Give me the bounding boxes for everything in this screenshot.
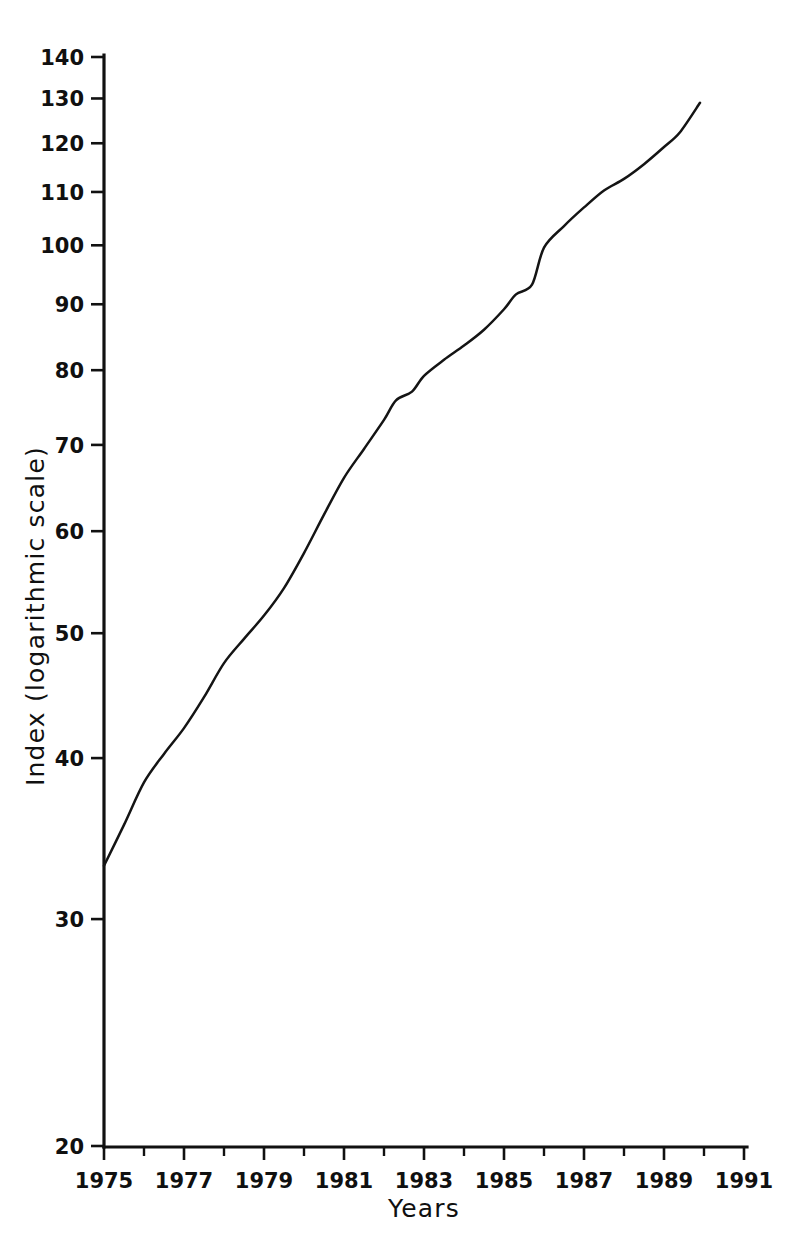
y-tick-label: 60 — [55, 520, 84, 544]
x-tick-label: 1991 — [715, 1169, 773, 1193]
chart-figure: 2030405060708090100110120130140 19751977… — [0, 0, 808, 1244]
y-tick-label: 140 — [40, 46, 84, 70]
line-chart-canvas: 2030405060708090100110120130140 19751977… — [0, 0, 808, 1244]
y-tick-label: 30 — [55, 908, 84, 932]
x-tick-label: 1987 — [555, 1169, 613, 1193]
x-axis-title: Years — [387, 1194, 460, 1223]
y-tick-label: 120 — [40, 132, 84, 156]
y-axis-title: Index (logarithmic scale) — [21, 446, 50, 786]
x-tick-label: 1981 — [315, 1169, 373, 1193]
y-axis-ticks — [91, 57, 104, 1146]
x-tick-label: 1989 — [635, 1169, 693, 1193]
y-tick-label: 80 — [55, 359, 84, 383]
x-tick-label: 1975 — [75, 1169, 133, 1193]
y-tick-label: 130 — [40, 87, 84, 111]
data-series-line — [104, 103, 700, 866]
y-tick-label: 90 — [55, 293, 84, 317]
x-axis-tick-labels: 197519771979198119831985198719891991 — [75, 1169, 773, 1193]
y-tick-label: 100 — [40, 234, 84, 258]
y-tick-label: 20 — [55, 1135, 84, 1159]
y-tick-label: 40 — [55, 747, 84, 771]
y-tick-label: 50 — [55, 622, 84, 646]
x-tick-label: 1977 — [155, 1169, 213, 1193]
x-tick-label: 1979 — [235, 1169, 293, 1193]
y-tick-label: 70 — [55, 434, 84, 458]
axis-lines — [104, 55, 747, 1147]
y-tick-label: 110 — [40, 181, 84, 205]
x-tick-label: 1983 — [395, 1169, 453, 1193]
x-tick-label: 1985 — [475, 1169, 533, 1193]
